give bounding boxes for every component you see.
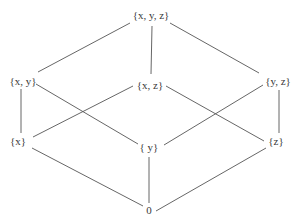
edge-xyz-yz (170, 23, 259, 73)
edge-z-empty (156, 148, 266, 211)
hasse-diagram (0, 0, 304, 223)
edge-yz-y (164, 85, 263, 145)
node-xy: {x, y} (9, 76, 36, 87)
node-x: {x} (10, 136, 26, 147)
edge-xz-x (33, 86, 133, 137)
node-z: {z} (268, 136, 283, 147)
edge-xyz-xz (151, 26, 152, 74)
edge-xz-z (166, 86, 264, 141)
node-xyz: {x, y, z} (133, 10, 170, 21)
edge-x-empty (32, 148, 143, 206)
node-y: { y} (140, 142, 159, 153)
edges (21, 23, 279, 211)
node-xz: {x, z} (137, 80, 163, 91)
node-yz: {y, z} (265, 76, 291, 87)
node-empty: 0 (146, 205, 152, 216)
edge-xy-y (36, 84, 138, 144)
edge-xyz-xy (38, 23, 130, 72)
